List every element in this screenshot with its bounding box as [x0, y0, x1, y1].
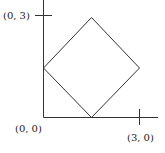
x-tick-label: (3, 0): [127, 132, 154, 143]
coordinate-diagram: (0, 3) (0, 0) (3, 0): [0, 0, 165, 153]
origin-label: (0, 0): [15, 123, 42, 134]
y-tick-label: (0, 3): [3, 10, 30, 21]
diamond-shape: [44, 18, 140, 118]
